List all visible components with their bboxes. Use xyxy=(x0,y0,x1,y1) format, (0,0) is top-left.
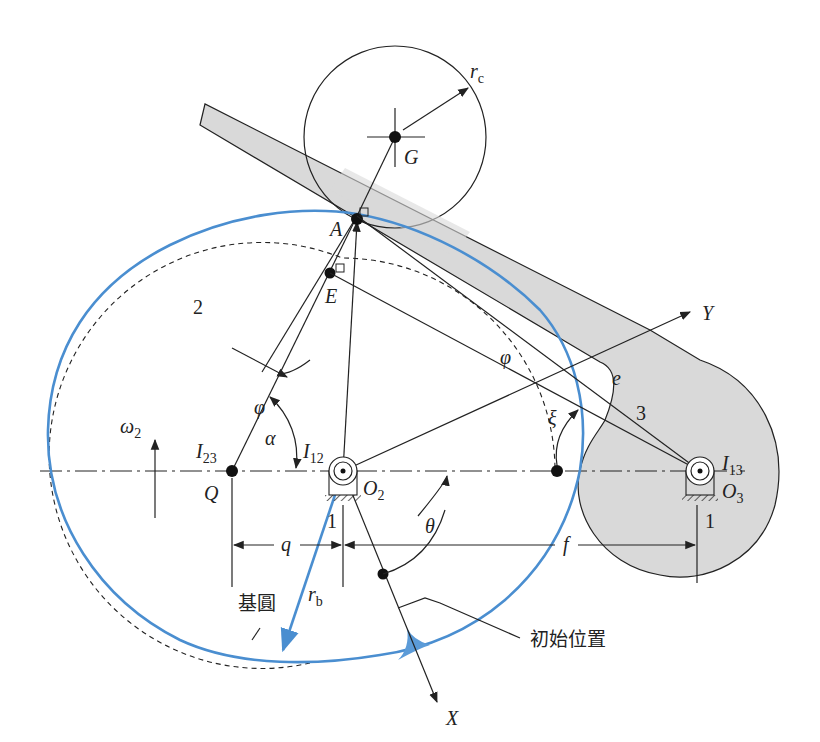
label-theta: θ xyxy=(425,515,435,537)
label-Q: Q xyxy=(204,482,219,504)
label-xi: ξ xyxy=(548,407,557,429)
label-omega: ω2 xyxy=(120,415,141,441)
label-phi-1: φ xyxy=(254,396,265,419)
label-frame-1-right: 1 xyxy=(705,510,715,532)
point-Q xyxy=(226,465,238,477)
label-Y: Y xyxy=(702,302,715,324)
label-O2: O2 xyxy=(363,477,384,503)
point-G xyxy=(389,131,401,143)
label-I23: I23 xyxy=(195,440,217,466)
label-rc: rc xyxy=(470,60,484,86)
label-G: G xyxy=(404,146,419,168)
label-base-circle: 基圓 xyxy=(238,592,276,614)
label-e: e xyxy=(612,367,621,389)
label-X: X xyxy=(445,707,459,729)
label-rb: rb xyxy=(308,583,323,609)
pivot-O2 xyxy=(325,457,361,501)
label-link-3: 3 xyxy=(636,402,646,424)
label-A: A xyxy=(328,218,343,240)
label-alpha: α xyxy=(265,427,276,449)
label-initial-position: 初始位置 xyxy=(530,628,606,650)
label-link-2: 2 xyxy=(193,296,203,318)
label-q: q xyxy=(281,533,291,556)
follower-link-3 xyxy=(200,104,779,577)
label-frame-1-left: 1 xyxy=(327,510,337,532)
label-I12: I12 xyxy=(302,440,324,466)
label-phi-2: φ xyxy=(500,346,511,369)
label-f: f xyxy=(563,533,571,556)
cam-follower-diagram: rc G A E 2 3 Y X φ φ α ξ θ e ω2 I23 I12 … xyxy=(0,0,820,742)
label-E: E xyxy=(324,285,337,307)
